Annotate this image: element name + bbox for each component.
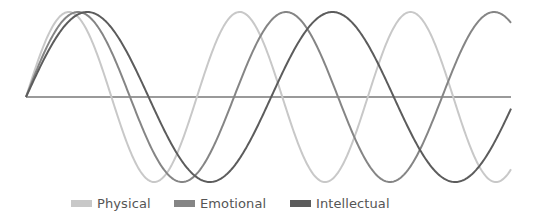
legend-label: Emotional [200, 196, 266, 211]
legend-item-intellectual: Intellectual [290, 192, 390, 214]
intellectual-swatch [290, 200, 311, 207]
chart-legend: Physical Emotional Intellectual [0, 192, 537, 214]
legend-item-physical: Physical [71, 192, 151, 214]
legend-label: Physical [97, 196, 151, 211]
emotional-swatch [174, 200, 195, 207]
legend-item-emotional: Emotional [174, 192, 266, 214]
physical-swatch [71, 200, 92, 207]
legend-label: Intellectual [316, 196, 390, 211]
biorhythm-chart [0, 0, 537, 190]
